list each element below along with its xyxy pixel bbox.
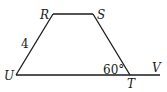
vertex-label-s: S (97, 8, 105, 22)
trapezoid-diagram: R S 4 U 60° T V (0, 0, 167, 92)
vertex-label-u: U (4, 69, 15, 83)
vertex-label-r: R (39, 8, 49, 22)
vertex-label-t: T (127, 77, 136, 91)
side-label-ur: 4 (21, 37, 29, 51)
vertex-label-v: V (152, 61, 162, 75)
angle-label-t: 60° (103, 63, 124, 77)
